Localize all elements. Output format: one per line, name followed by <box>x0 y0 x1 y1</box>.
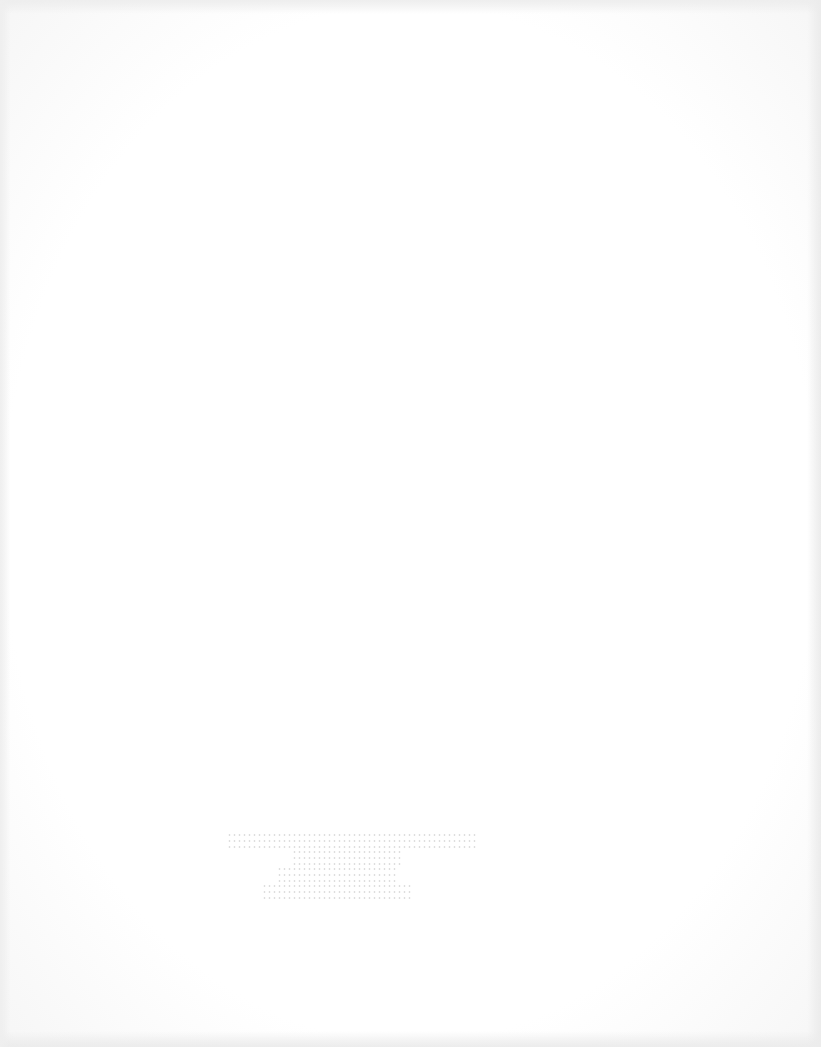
faint-bleed-through-text <box>222 832 482 900</box>
bleed-line <box>227 832 477 849</box>
bleed-line <box>277 866 397 883</box>
bleed-line <box>292 849 402 866</box>
page-edge-left-shadow <box>0 0 10 1047</box>
page-edge-right-shadow <box>807 0 821 1047</box>
page-edge-top-shadow <box>0 0 821 14</box>
page-edge-bottom-shadow <box>0 1031 821 1047</box>
bleed-line <box>262 883 412 900</box>
scanned-page <box>0 0 821 1047</box>
